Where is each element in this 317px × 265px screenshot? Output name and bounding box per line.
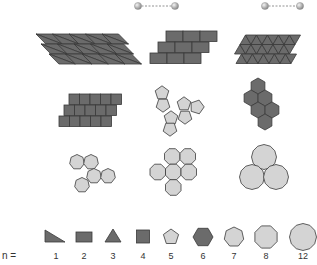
triangle-tiling — [235, 35, 301, 64]
dumbbell-1 — [134, 2, 178, 9]
legend-shapes — [45, 224, 317, 251]
legend-shape-right-triangle-icon — [45, 230, 65, 242]
right-triangle-tiling — [36, 34, 141, 64]
legend-shape-triangle-icon — [105, 229, 121, 242]
heptagon-cluster — [70, 155, 116, 192]
square-brick-tiling — [59, 94, 122, 127]
n-equals-label: n = — [2, 250, 16, 261]
legend-label-n-4: 4 — [140, 251, 145, 261]
legend-shape-pentagon-icon — [163, 229, 178, 244]
legend-label-n-7: 7 — [231, 251, 236, 261]
dodecagon-cluster — [240, 145, 289, 190]
legend-shape-hexagon-icon — [193, 228, 213, 245]
legend-label-n-6: 6 — [200, 251, 205, 261]
dumbbell-2 — [261, 2, 303, 9]
legend-label-n-1: 1 — [53, 251, 58, 261]
legend-shape-rectangle-icon — [76, 232, 92, 242]
tiling-diagram — [0, 0, 317, 265]
legend-shape-square-icon — [137, 230, 150, 243]
octagon-cluster — [150, 149, 197, 196]
pentagon-cluster — [155, 86, 204, 136]
legend-label-n-3: 3 — [110, 251, 115, 261]
legend-shape-heptagon-icon — [224, 227, 243, 246]
legend-shape-dodecagon-icon — [290, 224, 317, 251]
legend-shape-octagon-icon — [255, 226, 277, 248]
hexagon-cluster — [244, 78, 279, 130]
legend-label-n-2: 2 — [81, 251, 86, 261]
legend-label-n-12: 12 — [298, 251, 308, 261]
legend-label-n-8: 8 — [263, 251, 268, 261]
rectangle-brick-tiling — [150, 31, 217, 64]
legend-label-n-5: 5 — [168, 251, 173, 261]
